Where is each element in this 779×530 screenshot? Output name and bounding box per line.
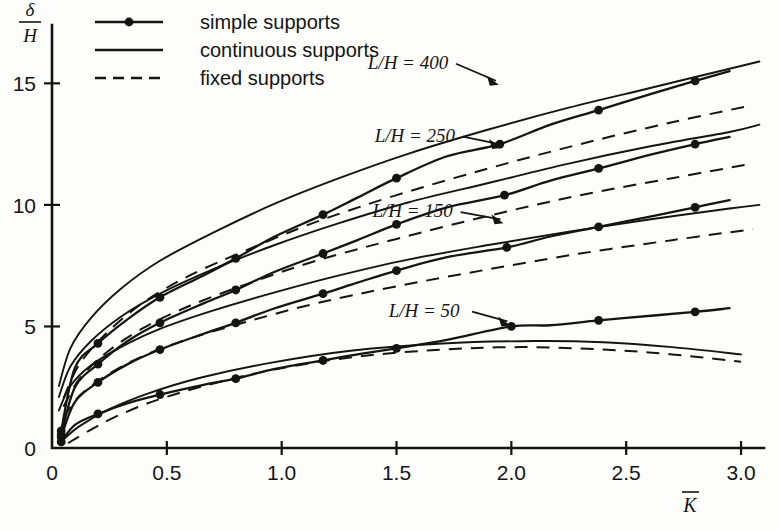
annotations-layer: L/H = 400L/H = 250L/H = 150L/H = 50: [367, 52, 511, 327]
annotation-arrowhead: [498, 316, 510, 326]
data-point: [392, 174, 401, 183]
data-point: [507, 322, 516, 331]
data-point: [319, 249, 328, 258]
data-point: [594, 164, 603, 173]
series-annotation: L/H = 400: [367, 52, 449, 73]
data-point: [319, 356, 328, 365]
series-annotation: L/H = 150: [371, 200, 453, 221]
series-annotation: L/H = 250: [374, 125, 456, 146]
data-point: [231, 254, 240, 263]
data-point: [231, 318, 240, 327]
y-axis-label-numerator: δ: [26, 0, 36, 20]
data-point: [594, 106, 603, 115]
data-point: [691, 307, 700, 316]
y-tick-label: 5: [24, 315, 36, 338]
y-tick-label: 10: [13, 194, 36, 217]
data-point: [94, 339, 103, 348]
x-tick-label: 2.0: [497, 461, 526, 484]
chart-svg: 00.51.01.52.02.53.0051015 L/H = 400L/H =…: [0, 0, 779, 530]
figure-container: 00.51.01.52.02.53.0051015 L/H = 400L/H =…: [0, 0, 779, 530]
curve-continuous-g0: [59, 61, 760, 386]
data-point: [319, 289, 328, 298]
series-annotation: L/H = 50: [388, 300, 460, 321]
data-point: [500, 191, 509, 200]
data-point: [57, 438, 66, 447]
data-point: [392, 344, 401, 353]
data-point: [502, 243, 511, 252]
data-point: [231, 286, 240, 295]
curves-layer: [59, 61, 760, 443]
data-point: [156, 390, 165, 399]
y-tick-label: 15: [13, 72, 36, 95]
x-tick-label: 2.5: [612, 461, 641, 484]
legend-label-continuous: continuous supports: [200, 39, 379, 61]
chart-legend: simple supportscontinuous supportsfixed …: [95, 11, 379, 89]
curve-fixed-g3: [68, 347, 741, 443]
data-point: [392, 220, 401, 229]
x-tick-label: 1.5: [382, 461, 411, 484]
data-point: [594, 222, 603, 231]
curve-fixed-g0: [63, 105, 752, 398]
legend-label-fixed: fixed supports: [200, 67, 325, 89]
data-point: [594, 316, 603, 325]
x-tick-label: 0.5: [152, 461, 181, 484]
curve-continuous-g1: [59, 125, 760, 397]
data-point: [231, 374, 240, 383]
data-point: [691, 203, 700, 212]
data-point: [94, 378, 103, 387]
y-tick-label: 0: [24, 437, 36, 460]
plot-axes: [52, 25, 764, 448]
data-point: [392, 266, 401, 275]
x-tick-label: 3.0: [726, 461, 755, 484]
data-point: [691, 77, 700, 86]
data-point: [94, 360, 103, 369]
data-point: [94, 410, 103, 419]
y-axis-label-denominator: H: [22, 25, 38, 46]
annotation-arrowhead: [491, 214, 503, 224]
x-tick-label: 1.0: [267, 461, 296, 484]
data-point: [319, 210, 328, 219]
legend-marker: [125, 18, 134, 27]
x-tick-label: 0: [46, 461, 58, 484]
data-point: [156, 293, 165, 302]
x-axis-label: K: [682, 494, 698, 516]
legend-label-simple: simple supports: [200, 11, 340, 33]
data-point: [156, 345, 165, 354]
data-point: [156, 318, 165, 327]
annotation-arrowhead: [487, 76, 499, 86]
curve-continuous-g3: [63, 341, 741, 440]
data-point: [691, 140, 700, 149]
